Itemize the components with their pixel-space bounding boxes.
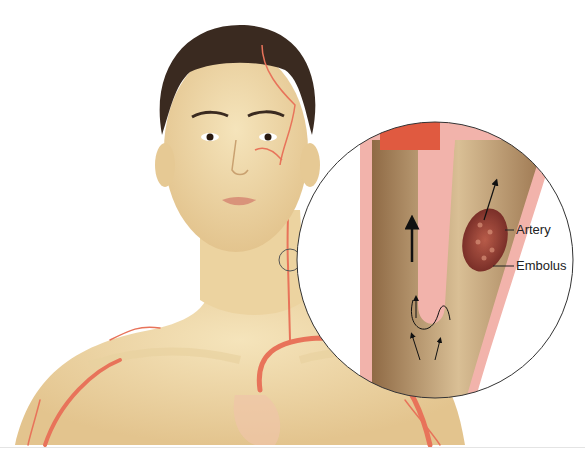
label-artery: Artery — [516, 222, 551, 237]
embolus-illustration — [0, 0, 585, 457]
label-embolus: Embolus — [516, 258, 567, 273]
bottom-divider — [0, 447, 585, 448]
